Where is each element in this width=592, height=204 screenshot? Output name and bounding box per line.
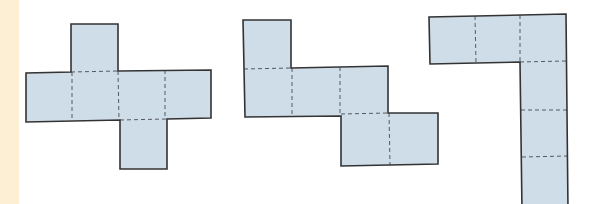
figure-canvas: Three cube nets made of six square faces… — [0, 0, 592, 204]
cube-net-1 — [26, 24, 211, 169]
cube-net-2 — [243, 20, 438, 166]
cube-nets-illustration — [0, 0, 592, 204]
cube-net-3 — [429, 14, 568, 204]
